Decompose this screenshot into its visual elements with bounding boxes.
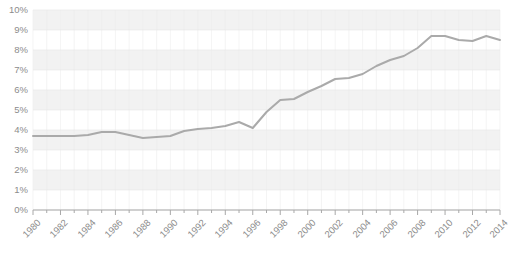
y-axis-tick-label: 2% (0, 164, 28, 175)
y-axis-tick-label: 5% (0, 104, 28, 115)
y-axis-tick-label: 6% (0, 84, 28, 95)
y-axis-tick-label: 1% (0, 184, 28, 195)
y-axis-tick-label: 10% (0, 4, 28, 15)
y-axis-tick-label: 8% (0, 44, 28, 55)
y-axis-tick-label: 7% (0, 64, 28, 75)
y-axis-tick-label: 9% (0, 24, 28, 35)
y-axis-tick-label: 3% (0, 144, 28, 155)
y-axis-tick-label: 0% (0, 204, 28, 215)
line-chart: 0%1%2%3%4%5%6%7%8%9%10% 1980198219841986… (0, 0, 509, 265)
x-axis-ticks (33, 210, 500, 215)
y-axis-tick-label: 4% (0, 124, 28, 135)
